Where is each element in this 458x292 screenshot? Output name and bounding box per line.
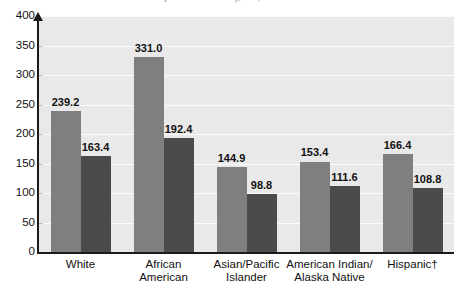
bar-value-label: 111.6 xyxy=(321,172,369,183)
y-axis-tick-label: 300 xyxy=(2,69,35,81)
bar xyxy=(247,194,277,252)
gridline xyxy=(39,134,454,135)
bar xyxy=(330,186,360,252)
y-axis-tick-mark xyxy=(39,134,43,135)
bar-value-label: 144.9 xyxy=(208,153,256,164)
bar-value-label: 108.8 xyxy=(404,174,452,185)
y-axis-tick-label: 0 xyxy=(2,246,35,258)
y-axis-tick-label: 150 xyxy=(2,158,35,170)
y-axis-tick-label: 100 xyxy=(2,187,35,199)
y-axis-tick-label: 50 xyxy=(2,217,35,229)
y-axis-tick-label: 200 xyxy=(2,128,35,140)
bar-value-label: 163.4 xyxy=(72,142,120,153)
y-axis-tick-labels: 050100150200250300350400 xyxy=(0,0,35,292)
bar-chart-figure: by Race and Ethnicity, U.S., 1990-2000 0… xyxy=(0,0,458,292)
y-axis-tick-mark xyxy=(39,75,43,76)
bar xyxy=(134,57,164,252)
gridline xyxy=(39,46,454,47)
chart-title: by Race and Ethnicity, U.S., 1990-2000 xyxy=(0,0,458,4)
bar xyxy=(51,111,81,252)
plot-area xyxy=(39,16,454,252)
y-axis-tick-mark xyxy=(39,46,43,47)
y-axis-tick-label: 250 xyxy=(2,99,35,111)
y-axis-line xyxy=(37,20,39,253)
gridline xyxy=(39,16,454,17)
bar xyxy=(164,138,194,252)
bar-value-label: 153.4 xyxy=(291,147,339,158)
bar-value-label: 166.4 xyxy=(374,140,422,151)
bar xyxy=(81,156,111,252)
y-axis-tick-mark xyxy=(39,223,43,224)
gridline xyxy=(39,75,454,76)
y-axis-tick-label: 400 xyxy=(2,10,35,22)
bar xyxy=(413,188,443,252)
y-axis-tick-mark xyxy=(39,193,43,194)
x-axis-line xyxy=(37,252,454,254)
gridline xyxy=(39,105,454,106)
y-axis-tick-mark xyxy=(39,164,43,165)
bar-value-label: 192.4 xyxy=(155,124,203,135)
x-axis-category-label: Hispanic† xyxy=(355,258,458,271)
bar-value-label: 98.8 xyxy=(238,180,286,191)
bar-value-label: 239.2 xyxy=(42,97,90,108)
y-axis-tick-label: 350 xyxy=(2,40,35,52)
bar-value-label: 331.0 xyxy=(125,43,173,54)
bar xyxy=(383,154,413,252)
